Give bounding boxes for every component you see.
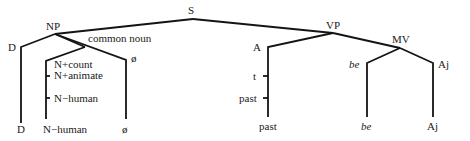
node-vp: VP (326, 19, 340, 31)
node-common-noun: common noun (88, 32, 152, 44)
node-be: be (349, 58, 360, 70)
leaf-null: ø (122, 123, 128, 135)
feature-t: t (253, 70, 256, 82)
node-s: S (188, 4, 194, 16)
leaf-aj: Aj (427, 120, 438, 132)
leaf-d: D (17, 123, 25, 135)
node-d: D (8, 41, 16, 53)
edge-vp-a (268, 33, 333, 117)
edge-mv-aj (400, 48, 433, 117)
node-aj: Aj (438, 58, 449, 70)
feature-n-animate: N+animate (54, 69, 103, 81)
leaf-past: past (259, 120, 277, 132)
edge-s-vp (193, 19, 333, 33)
leaf-n-human: N−human (43, 123, 88, 135)
edge-vp-mv (333, 33, 400, 48)
node-a: A (253, 41, 261, 53)
syntax-tree-diagram: S NP VP D common noun N+count N+animate … (0, 0, 470, 141)
node-np: NP (46, 20, 60, 32)
edge-mv-be (367, 48, 400, 117)
feature-n-human: N−human (54, 92, 99, 104)
leaf-be: be (361, 120, 372, 132)
edge-np-d (21, 34, 55, 123)
node-mv: MV (392, 33, 410, 45)
feature-past: past (239, 92, 257, 104)
node-null: ø (131, 52, 137, 64)
tree-labels: S NP VP D common noun N+count N+animate … (8, 4, 449, 135)
